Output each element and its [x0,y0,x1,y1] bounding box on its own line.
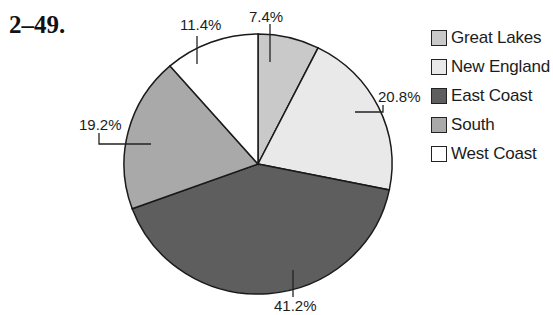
legend-swatch-great-lakes [431,30,447,46]
legend-label: East Coast [451,86,532,106]
pie-value-label: 7.4% [249,8,283,25]
pie-slices [124,34,392,294]
legend-swatch-west-coast [431,146,447,162]
legend-item-new-england: New England [431,52,550,81]
legend-label: West Coast [451,144,537,164]
legend-label: New England [451,57,550,77]
legend-label: Great Lakes [451,28,541,48]
legend-swatch-new-england [431,59,447,75]
legend-item-great-lakes: Great Lakes [431,23,550,52]
legend: Great Lakes New England East Coast South… [431,23,550,168]
pie-value-label: 19.2% [79,116,122,133]
legend-item-west-coast: West Coast [431,139,550,168]
pie-value-label: 11.4% [180,16,221,33]
pie-value-label: 20.8% [378,88,421,105]
legend-swatch-south [431,117,447,133]
legend-label: South [451,115,494,135]
legend-item-south: South [431,110,550,139]
legend-item-east-coast: East Coast [431,81,550,110]
legend-swatch-east-coast [431,88,447,104]
pie-value-label: 41.2% [274,297,317,314]
